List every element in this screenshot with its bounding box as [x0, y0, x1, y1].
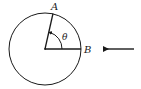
- label-point-a: A: [50, 1, 58, 12]
- radius-to-a: [45, 14, 53, 50]
- center-point: [44, 48, 46, 50]
- circle-diagram: A B θ: [0, 0, 141, 89]
- label-angle-theta: θ: [62, 32, 68, 42]
- label-point-b: B: [83, 44, 91, 55]
- angle-arc-icon: [50, 33, 62, 50]
